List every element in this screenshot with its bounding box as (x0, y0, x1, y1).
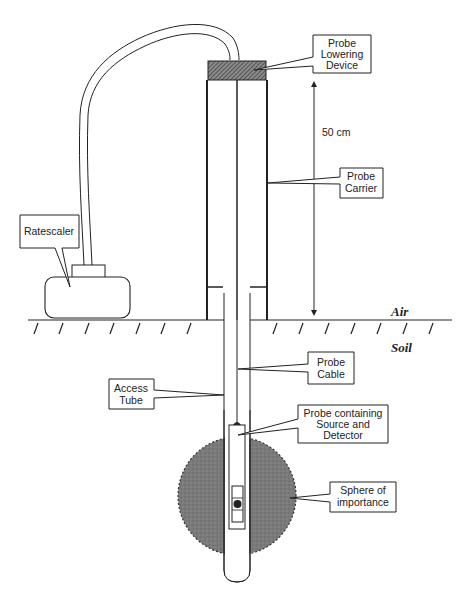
svg-text:Carrier: Carrier (345, 182, 378, 194)
probe-carrier-callout: Probe Carrier (268, 168, 383, 198)
svg-text:Access: Access (114, 382, 148, 394)
probe-lowering-device (208, 61, 266, 80)
air-label: Air (390, 304, 409, 319)
probe-body (229, 422, 245, 529)
svg-text:Probe: Probe (347, 170, 375, 182)
access-tube-callout: Access Tube (109, 379, 224, 409)
svg-text:Detector: Detector (323, 429, 363, 441)
ratescaler-label: Ratescaler (24, 225, 75, 237)
sphere-callout: Sphere of importance (290, 482, 396, 512)
svg-text:Device: Device (326, 59, 358, 71)
svg-text:Cable: Cable (317, 368, 345, 380)
probe-lowering-device-callout: Probe Lowering Device (254, 35, 371, 73)
svg-text:importance: importance (337, 496, 389, 508)
source-detector-icon (234, 500, 242, 508)
ratescaler-callout: Ratescaler (20, 215, 79, 287)
diagram-canvas: Ratescaler Air Soil (0, 0, 467, 596)
svg-text:Sphere of: Sphere of (340, 484, 386, 496)
svg-text:Tube: Tube (119, 394, 143, 406)
probe-cable-callout: Probe Cable (238, 352, 354, 384)
soil-label: Soil (391, 340, 412, 355)
neutron-probe-diagram: Ratescaler Air Soil (0, 0, 467, 596)
ground-surface (28, 320, 452, 334)
probe-source-detector-callout: Probe containing Source and Detector (238, 405, 388, 443)
distance-label: 50 cm (322, 126, 351, 138)
svg-text:Probe: Probe (317, 356, 345, 368)
ratescaler-device (45, 265, 130, 318)
